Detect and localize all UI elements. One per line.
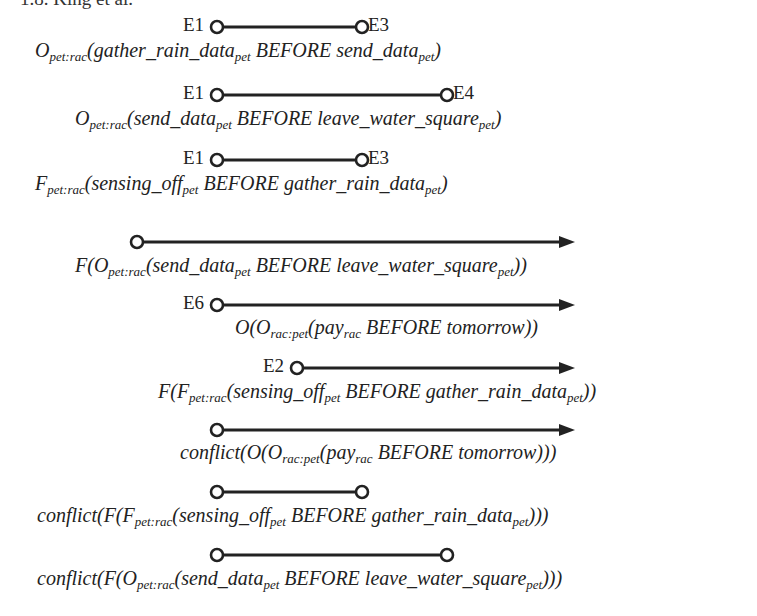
- timeline-arrow: [291, 362, 575, 374]
- formula-text: (gather_rain_data: [87, 39, 235, 61]
- formula-subscript: pet:rac: [137, 577, 175, 592]
- formula-text: F(F: [158, 380, 189, 402]
- start-event-circle-icon: [211, 424, 223, 436]
- formula-text: conflict(F(O: [37, 567, 137, 589]
- norm-formula: F(Fpet:rac(sensing_offpet BEFORE gather_…: [158, 381, 596, 401]
- norm-formula: Opet:rac(send_datapet BEFORE leave_water…: [75, 108, 501, 128]
- formula-text: (pay: [308, 316, 344, 338]
- start-event-circle-icon: [211, 486, 223, 498]
- norm-formula: conflict(F(Fpet:rac(sensing_offpet BEFOR…: [37, 505, 548, 525]
- formula-text: BEFORE gather_rain_data: [340, 380, 567, 402]
- formula-subscript: pet: [425, 182, 441, 197]
- formula-text: BEFORE tomorrow)): [361, 316, 538, 338]
- formula-text: ): [434, 39, 441, 61]
- formula-subscript: pet:rac: [189, 390, 227, 405]
- formula-text: (send_data: [175, 567, 264, 589]
- formula-text: ))): [542, 567, 562, 589]
- formula-text: BEFORE gather_rain_data: [198, 172, 425, 194]
- formula-text: conflict(O(O: [180, 441, 282, 463]
- formula-text: F(O: [75, 254, 108, 276]
- start-event-label: E1: [183, 148, 204, 167]
- timeline-arrow: [211, 299, 575, 311]
- end-event-circle-icon: [356, 21, 368, 33]
- start-event-circle-icon: [291, 362, 303, 374]
- formula-subscript: pet: [526, 577, 542, 592]
- formula-text: F: [35, 172, 47, 194]
- norm-formula: conflict(O(Orac:pet(payrac BEFORE tomorr…: [180, 442, 556, 462]
- start-event-circle-icon: [211, 21, 223, 33]
- start-event-circle-icon: [211, 299, 223, 311]
- formula-subscript: pet: [235, 264, 251, 279]
- start-event-label: E1: [183, 83, 204, 102]
- end-event-circle-icon: [356, 486, 368, 498]
- formula-subscript: pet: [418, 49, 434, 64]
- formula-text: BEFORE gather_rain_data: [286, 504, 513, 526]
- formula-subscript: pet: [513, 514, 529, 529]
- norm-formula: Fpet:rac(sensing_offpet BEFORE gather_ra…: [35, 173, 448, 193]
- arrowhead-icon: [559, 424, 575, 436]
- formula-subscript: pet: [324, 390, 340, 405]
- formula-subscript: pet: [235, 49, 251, 64]
- arrowhead-icon: [559, 299, 575, 311]
- formula-text: (send_data: [146, 254, 235, 276]
- formula-subscript: pet:rac: [89, 117, 127, 132]
- end-event-circle-icon: [441, 549, 453, 561]
- formula-text: BEFORE send_data: [251, 39, 419, 61]
- formula-text: ))): [528, 504, 548, 526]
- timeline-arrow: [131, 236, 575, 248]
- start-event-label: E6: [183, 293, 204, 312]
- formula-text: BEFORE tomorrow))): [373, 441, 557, 463]
- formula-text: )): [514, 254, 527, 276]
- formula-subscript: pet:rac: [49, 49, 87, 64]
- formula-subscript: pet: [567, 390, 583, 405]
- start-event-label: E2: [263, 356, 284, 375]
- formula-text: )): [583, 380, 596, 402]
- formula-text: O: [75, 107, 89, 129]
- timeline-segment: [211, 154, 368, 166]
- norm-formula: Opet:rac(gather_rain_datapet BEFORE send…: [35, 40, 441, 60]
- start-event-circle-icon: [211, 549, 223, 561]
- end-event-label: E3: [368, 148, 389, 167]
- formula-text: (sensing_off: [85, 172, 183, 194]
- formula-text: conflict(F(F: [37, 504, 135, 526]
- end-event-circle-icon: [441, 89, 453, 101]
- start-event-circle-icon: [211, 154, 223, 166]
- timeline-segment: [211, 549, 453, 561]
- formula-subscript: pet:rac: [135, 514, 173, 529]
- start-event-label: E1: [183, 15, 204, 34]
- formula-text: (pay: [320, 441, 356, 463]
- formula-subscript: pet: [183, 182, 199, 197]
- arrowhead-icon: [559, 362, 575, 374]
- formula-subscript: rac: [344, 326, 361, 341]
- formula-text: ): [441, 172, 448, 194]
- formula-subscript: pet: [498, 264, 514, 279]
- start-event-circle-icon: [211, 89, 223, 101]
- formula-text: BEFORE leave_water_square: [232, 107, 479, 129]
- end-event-circle-icon: [356, 154, 368, 166]
- formula-text: O: [35, 39, 49, 61]
- end-event-label: E3: [368, 15, 389, 34]
- norm-formula: F(Opet:rac(send_datapet BEFORE leave_wat…: [75, 255, 527, 275]
- formula-subscript: rac: [355, 451, 372, 466]
- timeline-segment: [211, 486, 368, 498]
- start-event-circle-icon: [131, 236, 143, 248]
- norm-formula: O(Orac:pet(payrac BEFORE tomorrow)): [235, 317, 538, 337]
- formula-subscript: rac:pet: [282, 451, 320, 466]
- timeline-segment: [211, 89, 453, 101]
- formula-text: ): [495, 107, 502, 129]
- formula-subscript: rac:pet: [271, 326, 309, 341]
- formula-text: (sensing_off: [172, 504, 270, 526]
- formula-subscript: pet: [479, 117, 495, 132]
- end-event-label: E4: [453, 83, 474, 102]
- formula-text: (sensing_off: [227, 380, 325, 402]
- formula-subscript: pet:rac: [47, 182, 85, 197]
- formula-subscript: pet: [216, 117, 232, 132]
- formula-text: BEFORE leave_water_square: [279, 567, 526, 589]
- norm-formula: conflict(F(Opet:rac(send_datapet BEFORE …: [37, 568, 562, 588]
- formula-subscript: pet: [263, 577, 279, 592]
- formula-text: BEFORE leave_water_square: [251, 254, 498, 276]
- arrowhead-icon: [559, 236, 575, 248]
- timeline-segment: [211, 21, 368, 33]
- formula-text: O(O: [235, 316, 271, 338]
- formula-text: (send_data: [127, 107, 216, 129]
